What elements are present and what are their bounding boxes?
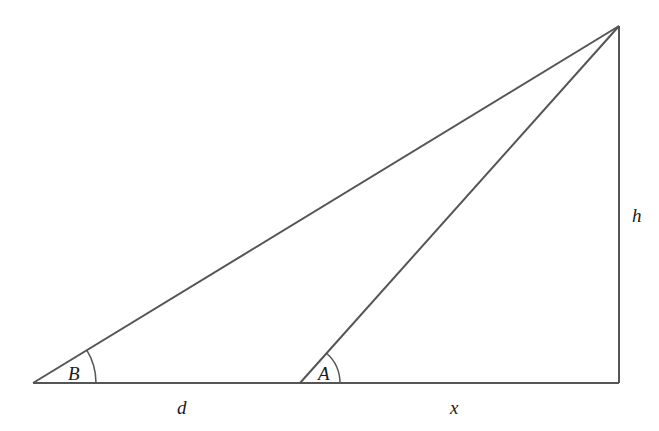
segment-d-label: d [177, 397, 187, 418]
height-h-label: h [632, 205, 642, 226]
hypotenuse-b [33, 26, 619, 383]
angle-b-label: B [68, 363, 80, 384]
hypotenuse-a [300, 26, 619, 383]
triangle-diagram: B A d x h [0, 0, 659, 431]
angle-b-arc [87, 350, 96, 383]
angle-a-label: A [316, 363, 330, 384]
segment-x-label: x [449, 397, 459, 418]
